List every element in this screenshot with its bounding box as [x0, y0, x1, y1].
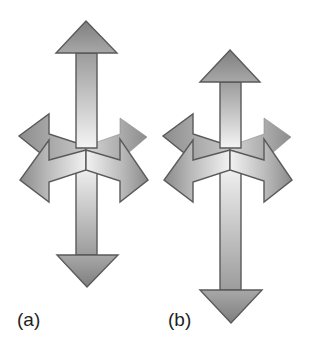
down-arrow-shaft [76, 165, 97, 255]
up-arrow-shaft [76, 53, 97, 148]
up-arrowhead [200, 50, 260, 82]
panel-a-label: (a) [17, 309, 40, 330]
arrow-diagram-figure: (a) (b) [0, 0, 316, 351]
panel-b: (b) [163, 50, 292, 330]
down-arrow-shaft [220, 165, 241, 290]
up-arrow-shaft [220, 82, 241, 148]
up-arrowhead [56, 21, 117, 53]
down-arrowhead [200, 290, 262, 323]
panel-b-label: (b) [168, 309, 191, 330]
down-arrowhead [57, 255, 118, 287]
panel-a: (a) [17, 21, 148, 330]
